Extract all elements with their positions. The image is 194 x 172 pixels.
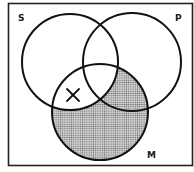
label-m: M	[147, 151, 156, 160]
venn-diagram	[0, 0, 194, 172]
label-s: S	[18, 14, 24, 23]
label-p: P	[175, 14, 182, 23]
